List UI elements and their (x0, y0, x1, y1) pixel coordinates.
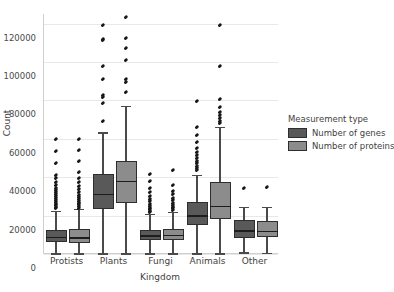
box-rect (257, 221, 278, 237)
whisker-cap (215, 127, 225, 128)
legend: Measurement type Number of genesNumber o… (288, 114, 383, 154)
median-line (93, 194, 114, 195)
outlier-point (242, 185, 247, 190)
outlier-point (218, 23, 223, 28)
outlier-point (77, 159, 82, 164)
whisker-cap (51, 253, 61, 254)
legend-entry[interactable]: Number of genes (288, 128, 383, 138)
whisker-cap (262, 207, 272, 208)
outlier-point (124, 45, 129, 50)
whisker-cap (121, 106, 131, 107)
outlier-point (54, 136, 59, 141)
outlier-point (124, 57, 129, 62)
median-line (46, 237, 67, 238)
y-tick-label: 60000 (9, 148, 36, 158)
legend-swatch (288, 128, 307, 138)
plot-area (43, 14, 278, 254)
legend-entry[interactable]: Number of proteins (288, 141, 383, 151)
box-series-layer (44, 14, 278, 253)
y-tick-label: 0 (31, 263, 36, 273)
box-rect (93, 174, 114, 208)
outlier-point (171, 168, 176, 173)
x-tick-label: Plants (100, 256, 127, 266)
outlier-point (101, 101, 106, 106)
whisker-cap (239, 207, 249, 208)
outlier-point (77, 180, 82, 185)
outlier-point (148, 190, 153, 195)
outlier-point (124, 36, 129, 41)
y-axis-tick-labels: 020000400006000080000100000120000 (0, 14, 41, 254)
outlier-point (148, 172, 153, 177)
x-tick-label: Animals (190, 256, 226, 266)
outlier-point (101, 37, 106, 42)
legend-label: Number of proteins (312, 141, 394, 151)
median-line (116, 181, 137, 182)
median-line (69, 237, 90, 238)
outlier-point (148, 179, 153, 184)
legend-label: Number of genes (312, 128, 385, 138)
legend-entries: Number of genesNumber of proteins (288, 128, 383, 151)
outlier-point (265, 185, 270, 190)
box-rect (234, 220, 255, 238)
outlier-point (54, 160, 59, 165)
whisker-cap (145, 253, 155, 254)
y-tick-label: 120000 (4, 33, 36, 43)
box-rect (69, 229, 90, 242)
outlier-point (77, 175, 82, 180)
outlier-point (101, 64, 106, 69)
x-tick-label: Fungi (148, 256, 172, 266)
legend-title: Measurement type (288, 114, 383, 124)
outlier-point (218, 105, 223, 110)
whisker-cap (145, 214, 155, 215)
x-axis-title: Kingdom (140, 272, 180, 282)
outlier-point (124, 15, 129, 20)
outlier-point (54, 148, 59, 153)
outlier-point (195, 133, 200, 138)
whisker-cap (192, 175, 202, 176)
whisker-cap (168, 212, 178, 213)
y-tick-label: 20000 (9, 225, 36, 235)
whisker-cap (262, 253, 272, 254)
whisker-cap (215, 253, 225, 254)
outlier-point (195, 98, 200, 103)
outlier-point (124, 90, 129, 95)
outlier-point (77, 148, 82, 153)
legend-swatch (288, 141, 307, 151)
x-tick-label: Other (242, 256, 268, 266)
outlier-point (218, 64, 223, 69)
outlier-point (77, 137, 82, 142)
outlier-point (101, 22, 106, 27)
y-tick-label: 100000 (4, 71, 36, 81)
median-line (234, 230, 255, 231)
x-axis-tick-labels: ProtistsPlantsFungiAnimalsOther (43, 256, 278, 270)
whisker-cap (121, 253, 131, 254)
median-line (187, 215, 208, 216)
y-tick-label: 80000 (9, 109, 36, 119)
outlier-point (77, 169, 82, 174)
outlier-point (101, 119, 106, 124)
whisker-cap (98, 132, 108, 133)
whisker-cap (168, 253, 178, 254)
whisker-cap (192, 253, 202, 254)
outlier-point (218, 97, 223, 102)
outlier-point (195, 125, 200, 130)
box-rect (210, 182, 231, 220)
median-line (210, 206, 231, 207)
whisker-cap (98, 253, 108, 254)
whisker-cap (74, 253, 84, 254)
whisker-cap (51, 211, 61, 212)
outlier-point (195, 140, 200, 145)
median-line (140, 235, 161, 236)
y-tick-label: 40000 (9, 186, 36, 196)
outlier-point (171, 183, 176, 188)
outlier-point (148, 185, 153, 190)
median-line (257, 231, 278, 232)
x-tick-label: Protists (50, 256, 83, 266)
box-rect (187, 202, 208, 225)
outlier-point (101, 76, 106, 81)
whisker-cap (239, 252, 249, 253)
outlier-point (195, 145, 200, 150)
median-line (163, 235, 184, 236)
